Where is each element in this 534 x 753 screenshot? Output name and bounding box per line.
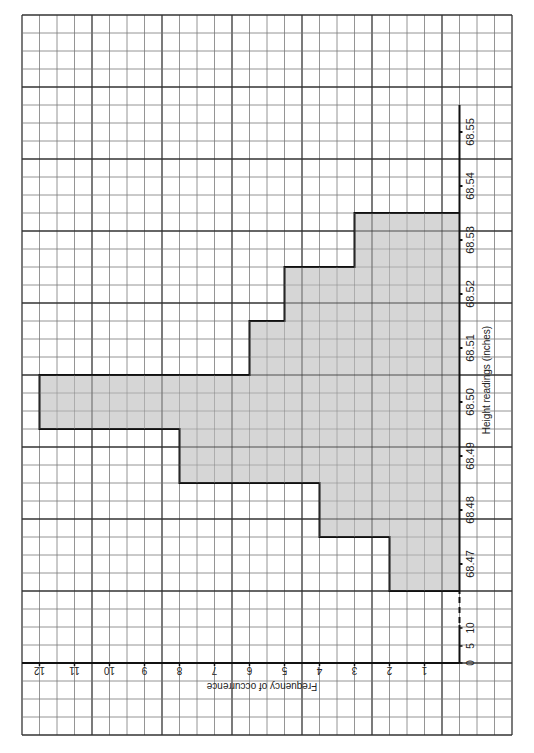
axis-break-tick-label: 5 [465,643,476,649]
height-tick-label: 68.49 [464,442,476,470]
height-tick-label: 68.47 [464,550,476,578]
frequency-axis-title: Frequency of occurrence [206,681,317,692]
height-tick-label: 68.53 [464,226,476,254]
frequency-tick-label: 5 [281,665,287,676]
height-tick-label: 68.50 [464,388,476,416]
frequency-tick-label: 8 [176,665,182,676]
axis-break-tick-label: 10 [465,622,476,634]
frequency-tick-label: 7 [211,665,217,676]
height-axis-title: Height readings (inches) [481,326,492,434]
frequency-tick-label: 10 [104,665,116,676]
histogram-chart: 68.4768.4868.4968.5068.5168.5268.5368.54… [0,0,534,753]
frequency-tick-label: 3 [351,665,357,676]
frequency-tick-label: 9 [141,665,147,676]
frequency-tick-label: 2 [386,665,392,676]
frequency-tick-label: 4 [316,665,322,676]
frequency-tick-label: 1 [421,665,427,676]
height-tick-label: 68.54 [464,172,476,200]
frequency-tick-label: 11 [69,665,80,676]
height-tick-label: 68.51 [464,334,476,362]
height-tick-label: 68.52 [464,280,476,308]
axis-break-tick-label: 0 [465,660,476,666]
frequency-tick-label: 6 [246,665,252,676]
frequency-tick-label: 12 [34,665,46,676]
height-tick-label: 68.55 [464,118,476,146]
height-tick-label: 68.48 [464,496,476,524]
